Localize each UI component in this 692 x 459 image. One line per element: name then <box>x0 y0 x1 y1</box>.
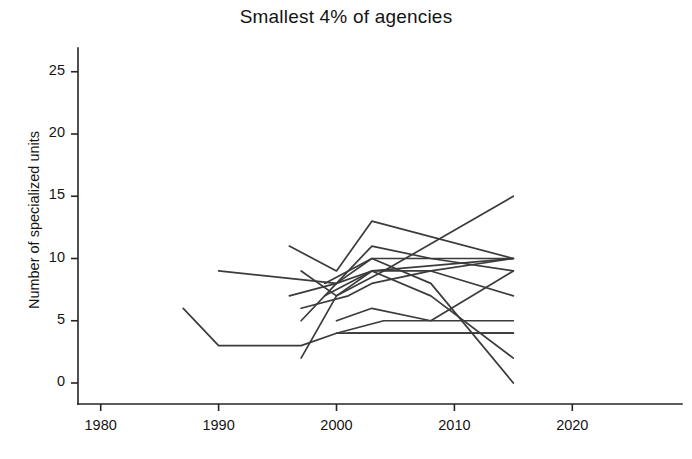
x-tick-label: 2000 <box>307 417 367 433</box>
y-tick-label: 20 <box>31 124 65 140</box>
plot-canvas <box>0 0 692 459</box>
x-tick-label: 2020 <box>542 417 602 433</box>
x-tick-label: 1990 <box>189 417 249 433</box>
x-tick-label: 1980 <box>71 417 131 433</box>
y-tick-label: 25 <box>31 62 65 78</box>
y-tick-label: 0 <box>31 373 65 389</box>
series-line <box>183 308 513 345</box>
y-tick-label: 10 <box>31 249 65 265</box>
x-tick-label: 2010 <box>424 417 484 433</box>
y-tick-label: 15 <box>31 186 65 202</box>
series-line <box>337 308 514 320</box>
chart-figure: Smallest 4% of agencies Number of specia… <box>0 0 692 459</box>
axes-group <box>71 48 682 411</box>
y-tick-label: 5 <box>31 311 65 327</box>
series-group <box>183 196 513 383</box>
